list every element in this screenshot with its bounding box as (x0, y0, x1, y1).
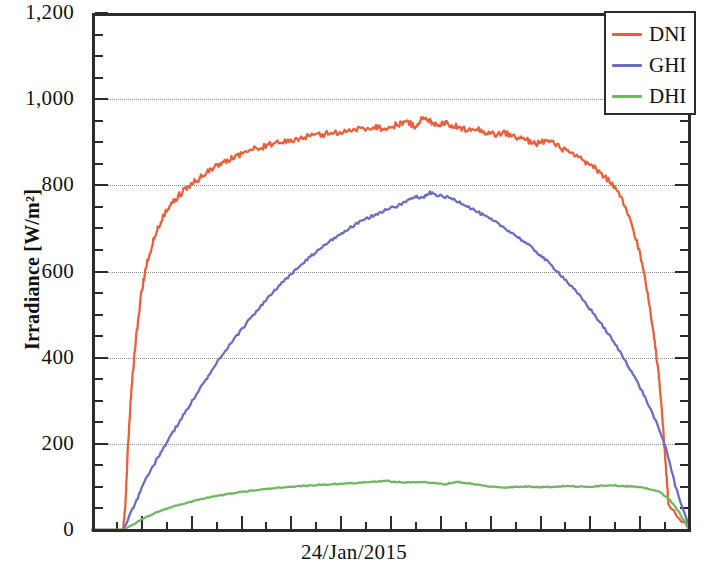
plot-spine-top (92, 13, 691, 16)
legend-item-dhi[interactable]: DHI (606, 81, 694, 112)
data-series-group (0, 0, 708, 571)
legend-item-ghi[interactable]: GHI (606, 50, 694, 81)
legend-label: DNI (649, 24, 686, 45)
x-axis-spine (92, 529, 691, 532)
y-axis-title: Irradiance [W/m²] (21, 160, 44, 380)
legend-swatch-dhi (612, 95, 642, 98)
legend-swatch-dni (612, 33, 642, 36)
legend-label: GHI (649, 55, 686, 76)
legend-label: DHI (649, 86, 686, 107)
legend-item-dni[interactable]: DNI (606, 19, 694, 50)
irradiance-chart: 02004006008001,0001,200 Irradiance [W/m²… (0, 0, 708, 571)
y-axis-spine-left (92, 13, 95, 532)
series-line-ghi (92, 191, 690, 530)
x-axis-title: 24/Jan/2015 (0, 540, 708, 565)
series-line-dhi (92, 481, 690, 530)
legend-swatch-ghi (612, 64, 642, 67)
chart-legend: DNIGHIDHI (604, 11, 696, 115)
